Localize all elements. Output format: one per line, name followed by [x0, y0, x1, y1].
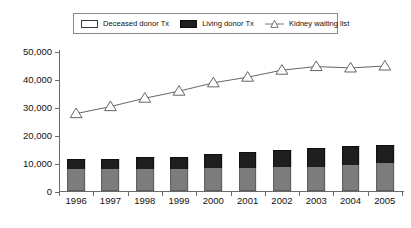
waiting-list-marker: [379, 60, 391, 70]
x-tick: [59, 192, 60, 196]
legend-swatch-deceased-icon: [81, 20, 98, 28]
x-tick: [93, 192, 94, 196]
chart-container: Deceased donor Tx Living donor Tx Kidney…: [0, 0, 411, 228]
legend-item-waiting-list: Kidney waiting list: [265, 19, 349, 29]
x-tick: [368, 192, 369, 196]
x-tick: [333, 192, 334, 196]
legend-label-waiting-list: Kidney waiting list: [289, 20, 349, 28]
y-tick-label: 50,000: [23, 47, 52, 57]
legend-swatch-living-icon: [180, 20, 197, 28]
waiting-list-marker: [345, 62, 357, 72]
x-tick: [402, 192, 403, 196]
x-tick-label: 1998: [134, 196, 155, 206]
legend-item-deceased-donor: Deceased donor Tx: [81, 20, 169, 28]
x-tick: [128, 192, 129, 196]
y-tick-label: 20,000: [23, 131, 52, 141]
x-tick: [231, 192, 232, 196]
legend-item-living-donor: Living donor Tx: [180, 20, 254, 28]
x-tick-label: 2001: [237, 196, 258, 206]
x-tick-label: 2004: [340, 196, 361, 206]
x-tick-label: 1997: [100, 196, 121, 206]
waiting-list-marker: [310, 61, 322, 71]
x-tick-label: 1999: [168, 196, 189, 206]
x-tick-label: 2000: [203, 196, 224, 206]
legend-triangle-line-icon: [265, 19, 284, 29]
y-tick-label: 0: [47, 187, 52, 197]
y-tick-label: 30,000: [23, 103, 52, 113]
x-tick: [162, 192, 163, 196]
x-tick-label: 1996: [66, 196, 87, 206]
chart-legend: Deceased donor Tx Living donor Tx Kidney…: [73, 13, 338, 34]
legend-label-living: Living donor Tx: [202, 20, 254, 28]
legend-label-deceased: Deceased donor Tx: [103, 20, 169, 28]
waiting-list-line-layer: [59, 52, 402, 192]
y-tick-label: 10,000: [23, 159, 52, 169]
x-tick: [299, 192, 300, 196]
x-tick: [196, 192, 197, 196]
waiting-list-line: [76, 66, 385, 114]
y-tick-label: 40,000: [23, 75, 52, 85]
x-tick-label: 2005: [374, 196, 395, 206]
x-tick-label: 2003: [306, 196, 327, 206]
x-tick: [265, 192, 266, 196]
x-tick-label: 2002: [271, 196, 292, 206]
plot-area: 010,00020,00030,00040,00050,000 19961997…: [59, 52, 402, 192]
